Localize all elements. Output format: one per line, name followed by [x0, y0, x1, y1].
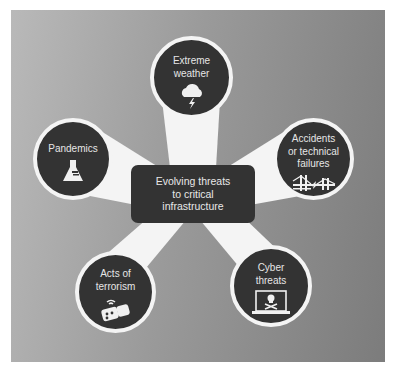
node-accidents: Accidents or technical failures: [273, 118, 354, 200]
broken-bridge-icon: [291, 174, 337, 196]
bomb-icon: [99, 296, 133, 326]
node-extreme-weather: Extreme weather: [150, 36, 233, 119]
center-label: Evolving threats to critical infrastruct…: [156, 175, 231, 213]
node-label: Pandemics: [48, 143, 97, 156]
node-terrorism: Acts of terrorism: [75, 251, 156, 333]
node-pandemics: Pandemics: [33, 118, 113, 200]
laptop-skull-icon: [251, 290, 291, 320]
flask-icon: [62, 159, 84, 187]
center-topic: Evolving threats to critical infrastruct…: [131, 165, 255, 223]
node-label: Cyber threats: [256, 262, 287, 287]
node-label: Extreme weather: [173, 55, 210, 80]
node-label: Acts of terrorism: [96, 268, 135, 293]
node-label: Accidents or technical failures: [288, 133, 339, 171]
cloud-lightning-icon: [178, 83, 206, 113]
node-cyber-threats: Cyber threats: [230, 245, 312, 327]
